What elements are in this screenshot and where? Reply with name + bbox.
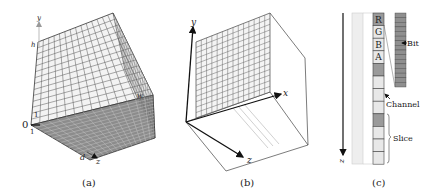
z-label: z (338, 158, 347, 164)
y-label: y (190, 17, 197, 27)
svg-text:R: R (375, 15, 382, 25)
strip (352, 13, 363, 164)
channel-cell (373, 114, 384, 127)
channel-cells: RGBA (373, 13, 384, 164)
channel-arrow (385, 94, 390, 99)
origin-label: 0 (22, 119, 28, 130)
channel-cell (373, 152, 384, 165)
channel-cell (373, 63, 384, 76)
channel-cell (373, 126, 384, 139)
y-axis-arrow (186, 27, 193, 122)
svg-text:B: B (375, 40, 382, 50)
y-label: y (36, 14, 42, 22)
z-label: z (246, 155, 252, 165)
w-label: w (137, 92, 143, 100)
zoom-line (384, 25, 395, 87)
caption-c: (c) (372, 177, 386, 188)
channel-cell (373, 139, 384, 152)
caption-b: (b) (240, 177, 254, 188)
one-z-label: 1 (30, 128, 34, 136)
bit-column (395, 13, 406, 87)
one-y-label: 1 (34, 111, 38, 119)
channel-cell (373, 76, 384, 89)
figure-canvas: y h 1 0 1 w d z (a) y x z (b) z (0, 0, 447, 194)
channel-label: Channel (386, 100, 420, 109)
x-label: x (283, 88, 288, 98)
h-label: h (31, 41, 36, 49)
z-label: z (95, 157, 101, 166)
caption-a: (a) (82, 177, 96, 188)
panel-a: y h 1 0 1 w d z (a) (22, 13, 155, 188)
slice-brace (387, 114, 391, 163)
panel-b: y x z (b) (186, 13, 308, 188)
svg-text:G: G (375, 27, 382, 37)
panel-c: z RGBA Bit Channel Slice (c) (338, 13, 420, 188)
channel-cell (373, 89, 384, 102)
slice-label: Slice (393, 134, 413, 143)
svg-text:A: A (374, 52, 382, 62)
channel-cell (373, 101, 384, 114)
d-label: d (80, 153, 85, 162)
bit-label: Bit (407, 39, 419, 48)
